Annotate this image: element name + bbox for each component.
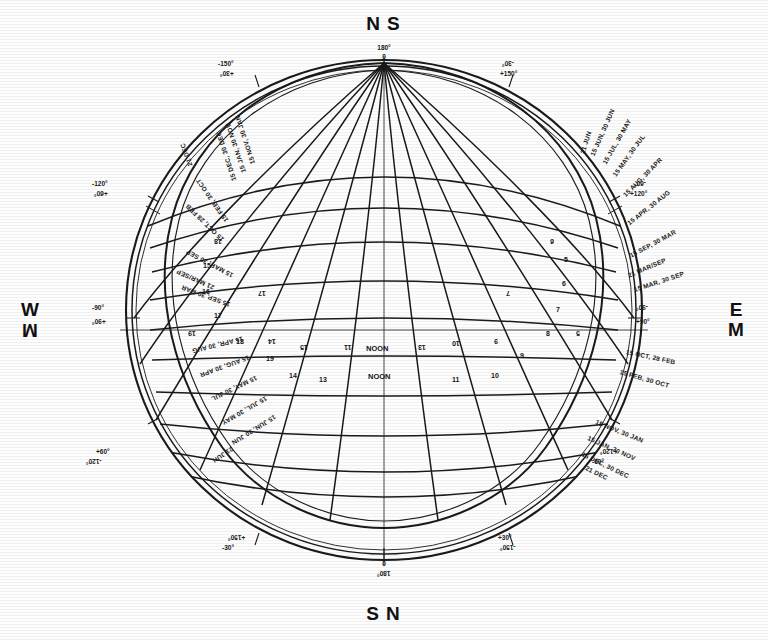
pole-top-degree: 180°: [364, 44, 404, 51]
hour-text: 5: [564, 256, 568, 263]
azimuth-label-bottom-right-b: -150°: [500, 544, 516, 551]
azimuth-label-upper-left-b: +60°: [94, 190, 108, 197]
hour-text: 5: [576, 330, 580, 337]
cardinal-bottom-secondary: N: [386, 603, 402, 624]
hour-label: 10: [491, 372, 499, 379]
hour-text: 9: [494, 338, 498, 345]
azimuth-label-top-right-b: +150°: [500, 70, 517, 77]
azimuth-label-lower-left-b: -120°: [86, 458, 102, 465]
hour-text: 13: [319, 376, 327, 383]
cardinal-top-primary: N: [366, 13, 382, 34]
hour-label: 15: [203, 262, 211, 269]
hour-text: 8: [546, 330, 550, 337]
pole-top-deg-text: 180°: [377, 44, 390, 51]
pole-bottom-zero: 0: [364, 560, 404, 567]
azimuth-text: +150°: [228, 534, 245, 541]
hour-text: 10: [452, 340, 460, 347]
azimuth-text: -120°: [86, 458, 102, 465]
hour-text: 17: [258, 290, 266, 297]
hour-label-mirrored: 18: [214, 238, 222, 245]
hour-text: 18: [236, 338, 244, 345]
azimuth-text: -90°: [636, 304, 648, 311]
azimuth-text: -90°: [92, 304, 104, 311]
cardinal-south-north: SN: [352, 604, 416, 624]
hour-text: 19: [188, 330, 196, 337]
azimuth-label-left-b: +90°: [92, 318, 106, 325]
noon-label-lower: NOON: [368, 372, 391, 381]
azimuth-text: +90°: [92, 318, 106, 325]
hour-label-mirrored: 5: [576, 330, 580, 337]
hour-label: 17: [214, 312, 222, 319]
hour-label-mirrored: 14: [268, 338, 276, 345]
azimuth-text: +60°: [94, 190, 108, 197]
hour-label: 18: [236, 338, 244, 345]
hour-text: 7: [556, 306, 560, 313]
hour-label-mirrored: 10: [452, 340, 460, 347]
azimuth-text: -30°: [502, 60, 514, 67]
hour-label-mirrored: 13: [418, 344, 426, 351]
hour-label-mirrored: 9: [494, 338, 498, 345]
hour-text: 15: [300, 344, 308, 351]
hour-label-mirrored: 17: [258, 290, 266, 297]
hour-text: 18: [214, 238, 222, 245]
azimuth-text: +30°: [498, 534, 512, 541]
hour-text: 6: [562, 280, 566, 287]
sun-path-chart: NS SN W M E M 180° 0 0 180° -150° +30° -…: [0, 0, 768, 640]
azimuth-text: +60°: [96, 448, 110, 455]
azimuth-label-bottom-left-b: -30°: [222, 544, 234, 551]
hour-text: 10: [491, 372, 499, 379]
azimuth-label-upper-left-a: -120°: [92, 180, 108, 187]
hour-label: 19: [266, 355, 274, 362]
hour-label-mirrored: 19: [188, 330, 196, 337]
azimuth-label-lower-left-a: +60°: [96, 448, 110, 455]
pole-bottom-deg-text: 180°: [377, 570, 390, 577]
hour-text: 15: [203, 262, 211, 269]
hour-text: 11: [452, 376, 459, 383]
hour-label: 5: [564, 256, 568, 263]
noon-text: NOON: [368, 372, 391, 381]
azimuth-text: -120°: [92, 180, 108, 187]
cardinal-right-primary: E: [730, 299, 745, 320]
noon-text: NOON: [366, 344, 389, 353]
azimuth-text: -30°: [222, 544, 234, 551]
azimuth-label-left-a: -90°: [92, 304, 104, 311]
azimuth-label-bottom-left-a: +150°: [228, 534, 245, 541]
azimuth-text: -150°: [500, 544, 516, 551]
hour-label: 14: [289, 372, 297, 379]
azimuth-label-right-a: -90°: [636, 304, 648, 311]
cardinal-left-secondary: M: [18, 320, 44, 340]
azimuth-label-top-left-a: -150°: [218, 60, 234, 67]
hour-text: 9: [520, 352, 524, 359]
hour-label-mirrored: 11: [344, 344, 351, 351]
hour-text: 7: [506, 290, 510, 297]
hour-text: 13: [418, 344, 426, 351]
cardinal-left-primary: W: [21, 299, 41, 320]
hour-label: 8: [546, 330, 550, 337]
hour-label: 13: [319, 376, 327, 383]
cardinal-west: W M: [18, 300, 44, 340]
azimuth-label-top-right-a: -30°: [502, 60, 514, 67]
pole-top-zero: 0: [364, 53, 404, 60]
hour-label-mirrored: 15: [300, 344, 308, 351]
azimuth-label-top-left-b: +30°: [220, 70, 234, 77]
azimuth-text: -150°: [218, 60, 234, 67]
hour-text: 6: [550, 238, 554, 245]
pole-top-zero-text: 0: [382, 53, 386, 60]
azimuth-label-bottom-right-a: +30°: [498, 534, 512, 541]
hour-text: 14: [268, 338, 276, 345]
cardinal-bottom-primary: S: [366, 603, 381, 624]
hour-label: 9: [520, 352, 524, 359]
hour-text: 16: [202, 288, 210, 295]
hour-label: 7: [556, 306, 560, 313]
cardinal-top-secondary: S: [387, 13, 402, 34]
azimuth-label-right-b: +90°: [636, 318, 650, 325]
cardinal-right-secondary: M: [728, 319, 746, 340]
cardinal-north-south: NS: [352, 14, 416, 34]
hour-label: 11: [452, 376, 459, 383]
hour-label: 6: [562, 280, 566, 287]
hour-label-mirrored: 7: [506, 290, 510, 297]
pole-bottom-degree: 180°: [364, 570, 404, 577]
chart-linework: [0, 0, 768, 640]
azimuth-text: +90°: [636, 318, 650, 325]
pole-bottom-zero-text: 0: [382, 560, 386, 567]
